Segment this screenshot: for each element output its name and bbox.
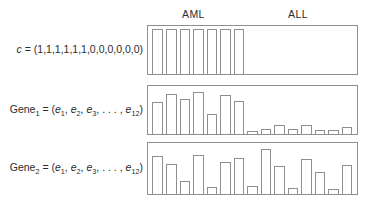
bar-s4 [193,92,204,134]
bar-s10 [274,125,285,134]
bar-slot [165,29,179,74]
bar-s13 [315,130,326,135]
bar-s3 [180,29,191,74]
sub-3: 3 [92,109,96,118]
row-label-gene1-e2: e [71,103,77,115]
row-label-gene2-suffix: ) [140,161,144,173]
bar-s5 [207,114,218,134]
bar-slot [232,29,246,74]
bar-slot [273,89,287,134]
bar-s7 [234,101,245,134]
bar-s6 [220,162,231,194]
bar-s14 [328,130,339,134]
bar-s7 [234,158,245,194]
bar-slot [327,146,341,194]
bars-gene2 [148,143,357,194]
bar-s3 [180,181,191,194]
ellipsis-1: , . . . , [96,103,125,115]
bar-s12 [301,125,312,134]
bar-s8 [247,131,258,134]
bar-s1 [152,29,163,74]
bar-slot [219,89,233,134]
bar-s1 [152,156,163,194]
bar-s4 [193,155,204,194]
figure-container: AML ALL c = (1,1,1,1,1,1,0,0,0,0,0,0) Ge… [0,0,367,201]
bar-slot [286,89,300,134]
bar-s10 [274,166,285,194]
bar-slot [192,146,206,194]
bar-slot [313,29,327,74]
bar-slot [313,89,327,134]
sub-1: 1 [61,109,65,118]
bar-s8 [247,186,258,194]
bar-slot [300,146,314,194]
row-label-c: c = (1,1,1,1,1,1,0,0,0,0,0,0) [17,43,143,55]
bar-slot [205,89,219,134]
bar-slot [205,29,219,74]
bar-slot [165,89,179,134]
bar-slot [205,146,219,194]
bar-slot [340,29,354,74]
bar-s15 [342,127,353,134]
row-label-gene1-prefix: Gene [10,103,36,115]
bar-slot [273,29,287,74]
sub-2: 2 [77,109,81,118]
row-label-gene1-eq: = ( [39,103,54,115]
bar-s4 [193,29,204,74]
class-header-all: ALL [288,8,308,20]
bar-slot [219,146,233,194]
class-header-aml: AML [182,8,205,20]
bar-slot [327,89,341,134]
bar-s5 [207,187,218,194]
sub-2b: 2 [77,167,81,176]
bar-slot [313,146,327,194]
row-label-gene2-e1: e [55,161,61,173]
bar-slot [246,29,260,74]
bars-class-vector [148,26,357,74]
row-label-gene2-eq: = ( [39,161,54,173]
bar-slot [259,89,273,134]
bar-slot [300,89,314,134]
bar-slot [232,89,246,134]
bar-slot [219,29,233,74]
ellipsis-2: , . . . , [96,161,125,173]
bar-s2 [166,164,177,194]
bar-s6 [220,29,231,74]
bar-slot [151,29,165,74]
row-label-gene1-suffix: ) [140,103,144,115]
row-label-gene2-e2: e [71,161,77,173]
bar-slot [300,29,314,74]
row-label-gene1-e1: e [55,103,61,115]
sub-3b: 3 [92,167,96,176]
bar-s2 [166,94,177,135]
row-label-gene1: Gene1 = (e1, e2, e3, . . . , e12) [10,103,143,115]
bar-slot [151,146,165,194]
bar-slot [327,29,341,74]
bar-slot [178,89,192,134]
row-label-gene1-subscript: 1 [35,109,39,118]
bar-slot [286,29,300,74]
bar-slot [192,89,206,134]
bar-slot [178,146,192,194]
bar-slot [340,146,354,194]
bar-s9 [261,129,272,134]
row-label-gene2-subscript: 2 [35,167,39,176]
panel-gene1 [147,85,358,135]
bar-s11 [288,188,299,194]
bar-s13 [315,172,326,194]
bar-slot [340,89,354,134]
bar-slot [246,89,260,134]
bar-s1 [152,102,163,134]
sub-12: 12 [131,109,139,118]
bar-s14 [328,189,339,194]
row-label-c-eq: = ( [22,43,37,55]
bar-s3 [180,99,191,134]
bar-s12 [301,159,312,194]
bars-gene1 [148,86,357,134]
bar-slot [259,146,273,194]
row-label-gene2-prefix: Gene [10,161,36,173]
sub-1b: 1 [61,167,65,176]
bar-slot [165,146,179,194]
bar-s6 [220,95,231,134]
bar-slot [273,146,287,194]
